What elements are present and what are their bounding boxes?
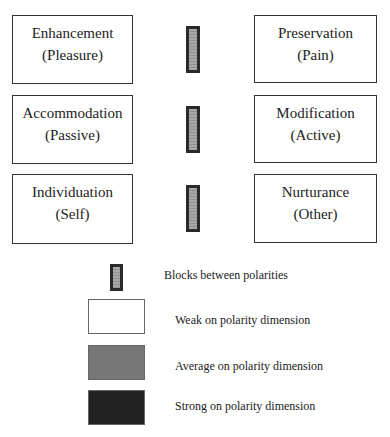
polarity-title: Individuation (13, 181, 132, 203)
polarity-subtitle: (Self) (13, 203, 132, 225)
polarity-box-enhancement: Enhancement (Pleasure) (12, 15, 133, 84)
legend-strong-swatch (88, 390, 145, 425)
legend-block-icon (110, 264, 123, 291)
polarity-subtitle: (Pleasure) (13, 44, 132, 66)
polarity-subtitle: (Passive) (13, 124, 132, 146)
polarity-title: Modification (255, 102, 376, 124)
polarity-block-icon (186, 106, 200, 153)
polarity-box-modification: Modification (Active) (254, 95, 377, 163)
polarity-box-individuation: Individuation (Self) (12, 174, 133, 244)
polarity-block-icon (186, 26, 200, 73)
polarity-subtitle: (Other) (255, 203, 376, 225)
legend-weak-label: Weak on polarity dimension (175, 313, 310, 328)
polarity-box-preservation: Preservation (Pain) (254, 15, 377, 83)
polarity-box-nurturance: Nurturance (Other) (254, 174, 377, 243)
polarity-subtitle: (Pain) (255, 44, 376, 66)
polarity-title: Nurturance (255, 181, 376, 203)
polarity-title: Preservation (255, 22, 376, 44)
polarity-box-accommodation: Accommodation (Passive) (12, 95, 133, 164)
legend-average-swatch (88, 345, 145, 380)
polarity-title: Enhancement (13, 22, 132, 44)
legend-strong-label: Strong on polarity dimension (175, 399, 315, 414)
polarity-title: Accommodation (13, 102, 132, 124)
legend-average-label: Average on polarity dimension (175, 359, 323, 374)
polarity-block-icon (186, 185, 200, 232)
legend-blocks-label: Blocks between polarities (164, 268, 288, 283)
polarity-subtitle: (Active) (255, 124, 376, 146)
legend-weak-swatch (88, 299, 145, 334)
